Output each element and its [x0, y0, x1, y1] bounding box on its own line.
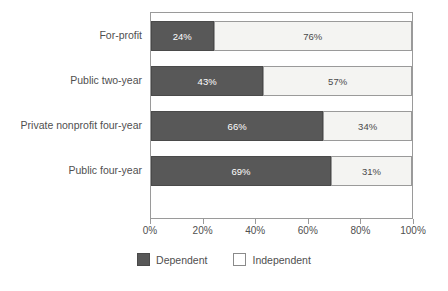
y-axis-label-for-profit: For-profit — [0, 20, 142, 50]
legend-swatch-dependent — [137, 253, 150, 266]
x-axis-tick — [255, 219, 256, 224]
x-axis-tick-label-40: 40% — [245, 225, 265, 236]
x-axis-tick — [413, 219, 414, 224]
chart-legend: Dependent Independent — [0, 253, 448, 266]
bar-segment-independent: 76% — [214, 21, 412, 51]
y-axis-label-private-nonprofit-four-year: Private nonprofit four-year — [0, 110, 142, 140]
plot-area: 24% 76% 43% 57% 66% 34% 69% 31% — [150, 12, 413, 219]
legend-item-dependent: Dependent — [137, 253, 207, 266]
x-axis-tick — [360, 219, 361, 224]
x-axis-tick-label-100: 100% — [400, 225, 426, 236]
stacked-bar-chart: For-profit Public two-year Private nonpr… — [0, 0, 448, 291]
bar-row-public-four-year: 69% 31% — [151, 156, 412, 186]
y-axis-label-public-four-year: Public four-year — [0, 155, 142, 185]
legend-swatch-independent — [233, 253, 246, 266]
y-axis-label-public-two-year: Public two-year — [0, 65, 142, 95]
bar-segment-dependent: 43% — [151, 66, 263, 96]
x-axis-tick-label-20: 20% — [193, 225, 213, 236]
x-axis-tick — [308, 219, 309, 224]
legend-item-independent: Independent — [233, 253, 310, 266]
y-axis-category-labels: For-profit Public two-year Private nonpr… — [0, 12, 146, 219]
x-axis-tick-label-60: 60% — [298, 225, 318, 236]
x-axis-tick-label-80: 80% — [350, 225, 370, 236]
bar-segment-dependent: 24% — [151, 21, 214, 51]
bar-row-private-nonprofit-four-year: 66% 34% — [151, 111, 412, 141]
bar-segment-independent: 57% — [263, 66, 412, 96]
x-axis-tick-label-0: 0% — [143, 225, 157, 236]
x-axis-tick-labels: 0% 20% 40% 60% 80% 100% — [150, 225, 413, 241]
bar-row-public-two-year: 43% 57% — [151, 66, 412, 96]
legend-label-independent: Independent — [252, 254, 310, 266]
bar-segment-independent: 31% — [331, 156, 412, 186]
bar-row-for-profit: 24% 76% — [151, 21, 412, 51]
bar-segment-dependent: 69% — [151, 156, 331, 186]
legend-label-dependent: Dependent — [156, 254, 207, 266]
x-axis-tick — [150, 219, 151, 224]
bar-segment-dependent: 66% — [151, 111, 323, 141]
bar-segment-independent: 34% — [323, 111, 412, 141]
x-axis-tick — [203, 219, 204, 224]
